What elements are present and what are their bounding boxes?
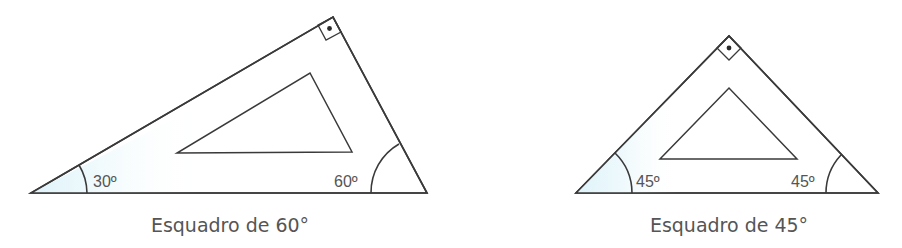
caption-45: Esquadro de 45°	[650, 214, 808, 236]
set-square-60-cutout	[177, 73, 352, 153]
set-squares-diagram: 30º 60º Esquadro de 60° 45º 45º Esquadro…	[0, 0, 902, 248]
caption-60: Esquadro de 60°	[151, 214, 309, 236]
angle-label-30: 30º	[93, 173, 117, 190]
angle-label-45-left: 45º	[636, 173, 660, 190]
right-angle-dot-45	[727, 46, 732, 51]
angle-label-60: 60º	[334, 173, 358, 190]
set-square-60: 30º 60º Esquadro de 60°	[31, 17, 427, 236]
set-square-45: 45º 45º Esquadro de 45°	[576, 36, 878, 236]
angle-arc-60	[371, 144, 399, 193]
angle-label-45-right: 45º	[791, 173, 815, 190]
angle-arc-45-right	[826, 155, 841, 193]
set-square-45-cutout	[660, 88, 797, 159]
right-angle-dot-60	[327, 26, 332, 31]
